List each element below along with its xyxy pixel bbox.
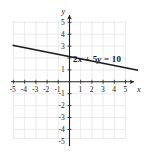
- x-axis: [11, 79, 134, 84]
- y-tick-label-neg3: -3: [59, 114, 65, 122]
- x-tick-label-2: 2: [90, 86, 94, 94]
- x-axis-letter: x: [137, 85, 141, 94]
- x-tick-label-3: 3: [101, 86, 105, 94]
- x-tick-label-4: 4: [112, 86, 116, 94]
- x-tick-label-neg4: -4: [21, 86, 27, 94]
- equation-result: = 10: [102, 54, 122, 64]
- y-tick-label-3: 3: [61, 43, 65, 51]
- y-axis: [67, 15, 72, 146]
- x-tick-label-neg3: -3: [32, 86, 38, 94]
- equation-annotation: 2x + 5y = 10: [73, 54, 121, 64]
- y-tick-label-1: 1: [61, 66, 65, 74]
- y-tick-label-neg4: -4: [59, 126, 65, 134]
- coordinate-plane: [0, 0, 153, 156]
- y-tick-label-neg2: -2: [59, 102, 65, 110]
- y-axis-letter: y: [62, 7, 66, 16]
- y-tick-label-4: 4: [61, 31, 65, 39]
- x-tick-label-5: 5: [123, 86, 127, 94]
- y-tick-label-neg1: -1: [59, 90, 65, 98]
- x-tick-label-neg2: -2: [43, 86, 49, 94]
- x-tick-label-neg5: -5: [10, 86, 16, 94]
- equation-operator: + 5: [82, 54, 97, 64]
- y-tick-label-neg5: -5: [59, 138, 65, 146]
- y-tick-label-5: 5: [61, 19, 65, 27]
- graph-figure: -5 -4 -3 -2 -1 1 2 3 4 5 5 4 3 1 -1 -2 -…: [0, 0, 153, 156]
- x-tick-label-1: 1: [79, 86, 83, 94]
